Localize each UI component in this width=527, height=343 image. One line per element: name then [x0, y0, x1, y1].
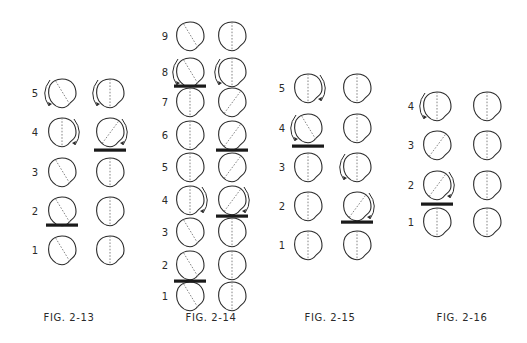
petal-left — [177, 218, 204, 247]
petal-left — [177, 22, 204, 51]
petal-right — [219, 153, 246, 182]
petal-left — [295, 153, 322, 182]
petal-right — [344, 114, 371, 143]
clockwise-arrow-icon — [202, 187, 207, 213]
row-number-label: 2 — [32, 206, 38, 217]
petal-left — [295, 231, 322, 260]
counterclockwise-arrow-icon — [93, 80, 98, 106]
axis-dashed-line — [56, 199, 70, 222]
counterclockwise-arrow-icon — [420, 93, 425, 119]
petal-outline — [177, 58, 204, 87]
separator-bar — [46, 224, 78, 227]
petal-right — [344, 74, 371, 103]
row-number-label: 1 — [162, 291, 168, 302]
diagram-svg — [0, 0, 527, 343]
axis-dashed-line — [56, 81, 70, 104]
counterclockwise-arrow-icon — [45, 80, 50, 106]
petal-right — [215, 58, 246, 87]
petal-left — [49, 197, 76, 226]
row-number-label: 5 — [279, 83, 285, 94]
clockwise-arrow-icon — [449, 172, 454, 198]
petal-right — [474, 171, 501, 200]
separator-bar — [216, 215, 248, 218]
petal-left — [177, 121, 204, 150]
petal-right — [474, 131, 501, 160]
petal-right — [474, 208, 501, 237]
petal-right — [219, 88, 246, 117]
figure-caption-2-15: FIG. 2-15 — [305, 312, 356, 323]
axis-dashed-line — [184, 253, 198, 276]
row-number-label: 4 — [32, 127, 38, 138]
petal-right — [219, 22, 246, 51]
figure-caption-2-13: FIG. 2-13 — [44, 312, 95, 323]
petal-outline — [177, 251, 204, 280]
petal-left — [173, 58, 204, 87]
petal-left — [177, 282, 204, 311]
axis-dashed-line — [224, 92, 240, 114]
petal-left — [295, 192, 322, 221]
petal-outline — [49, 158, 76, 187]
petal-right — [97, 158, 124, 187]
counterclockwise-arrow-icon — [340, 154, 345, 180]
separator-bar — [421, 203, 453, 206]
petal-outline — [295, 114, 322, 143]
petal-right — [219, 186, 250, 215]
clockwise-arrow-icon — [122, 119, 127, 145]
separator-bar — [174, 280, 206, 283]
counterclockwise-arrow-icon — [291, 115, 296, 141]
row-number-label: 3 — [279, 162, 285, 173]
clockwise-arrow-icon — [369, 193, 374, 219]
petal-left — [420, 92, 451, 121]
row-number-label: 4 — [162, 195, 168, 206]
petal-right — [219, 251, 246, 280]
row-number-label: 4 — [408, 101, 414, 112]
axis-dashed-line — [102, 122, 118, 144]
axis-dashed-line — [184, 220, 198, 243]
row-number-label: 1 — [408, 217, 414, 228]
row-number-label: 3 — [32, 167, 38, 178]
axis-dashed-line — [224, 190, 240, 212]
counterclockwise-arrow-icon — [173, 59, 178, 85]
figure-caption-2-14: FIG. 2-14 — [186, 312, 237, 323]
petal-left — [177, 88, 204, 117]
axis-dashed-line — [224, 157, 240, 179]
axis-dashed-line — [302, 116, 316, 139]
row-number-label: 5 — [162, 162, 168, 173]
row-number-label: 7 — [162, 97, 168, 108]
axis-dashed-line — [429, 175, 445, 197]
petal-outline — [177, 282, 204, 311]
axis-dashed-line — [224, 125, 240, 147]
petal-right — [97, 197, 124, 226]
petal-left — [177, 251, 204, 280]
row-number-label: 3 — [408, 140, 414, 151]
petal-left — [49, 118, 80, 147]
petal-right — [219, 121, 246, 150]
axis-dashed-line — [56, 160, 70, 183]
clockwise-arrow-icon — [74, 119, 79, 145]
axis-dashed-line — [184, 24, 198, 47]
petal-left — [177, 153, 204, 182]
petal-outline — [177, 22, 204, 51]
petal-left — [45, 79, 76, 108]
petal-right — [474, 92, 501, 121]
row-number-label: 2 — [408, 180, 414, 191]
petal-left — [424, 208, 451, 237]
axis-dashed-line — [184, 60, 198, 83]
petal-right — [344, 192, 375, 221]
petal-outline — [49, 79, 76, 108]
axis-dashed-line — [429, 135, 445, 157]
axis-dashed-line — [349, 196, 365, 218]
axis-dashed-line — [56, 238, 70, 261]
clockwise-arrow-icon — [320, 75, 325, 101]
petal-left — [424, 171, 455, 200]
petal-right — [97, 118, 128, 147]
petal-left — [177, 186, 208, 215]
separator-bar — [174, 85, 206, 88]
petal-outline — [49, 197, 76, 226]
petal-right — [340, 153, 371, 182]
petal-left — [49, 158, 76, 187]
petal-right — [93, 79, 124, 108]
petal-outline — [49, 236, 76, 265]
row-number-label: 2 — [162, 260, 168, 271]
row-number-label: 9 — [162, 31, 168, 42]
